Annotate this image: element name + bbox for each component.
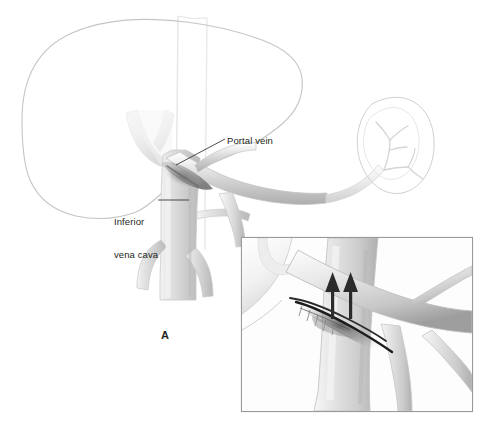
label-ivc-line1: Inferior	[114, 216, 158, 227]
portocaval-shunt-illustration	[0, 0, 490, 447]
panel-letter-label: A	[161, 329, 169, 341]
figure-root: Portal vein Inferior vena cava A	[0, 0, 490, 447]
inset-magnified-anastomosis	[242, 238, 473, 412]
label-portal-vein: Portal vein	[227, 135, 273, 146]
label-ivc-line2: vena cava	[114, 249, 158, 260]
label-inferior-vena-cava: Inferior vena cava	[114, 194, 158, 282]
